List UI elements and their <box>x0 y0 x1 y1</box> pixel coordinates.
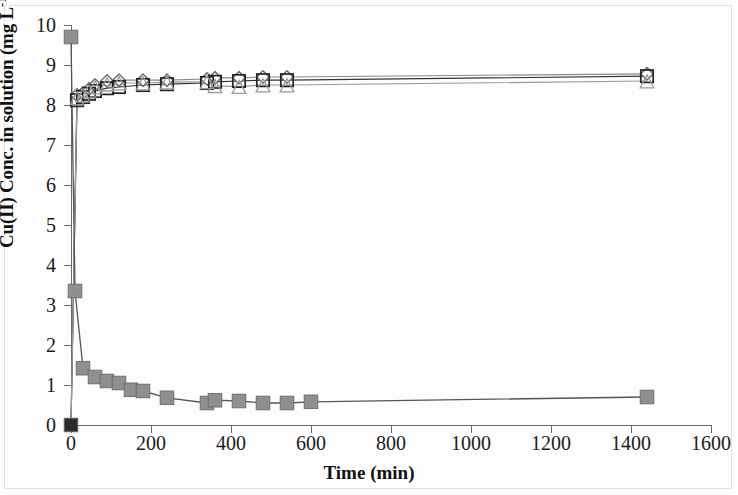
data-point-marker <box>640 390 654 404</box>
figure-panel: 012345678910 020040060080010001200140016… <box>0 0 738 495</box>
data-markers <box>71 70 653 106</box>
data-point-marker <box>232 394 246 408</box>
data-point-marker <box>280 396 294 410</box>
data-point-marker <box>64 30 78 44</box>
series-line <box>71 74 647 425</box>
data-series <box>71 37 647 403</box>
series-line <box>71 81 647 425</box>
data-point-marker <box>160 391 174 405</box>
series-line <box>71 76 647 425</box>
data-point-marker <box>281 71 293 83</box>
series-line <box>71 37 647 403</box>
data-series <box>71 81 647 425</box>
data-point-marker <box>256 396 270 410</box>
data-series <box>71 76 647 425</box>
data-point-marker <box>68 284 82 298</box>
data-markers <box>64 418 78 432</box>
data-point-marker <box>64 418 78 432</box>
data-point-marker <box>208 393 222 407</box>
data-series <box>71 74 647 425</box>
data-markers <box>64 30 654 410</box>
data-series-layer <box>0 0 738 495</box>
data-point-marker <box>233 72 245 84</box>
data-point-marker <box>136 384 150 398</box>
data-point-marker <box>304 395 318 409</box>
data-point-marker <box>257 71 269 83</box>
